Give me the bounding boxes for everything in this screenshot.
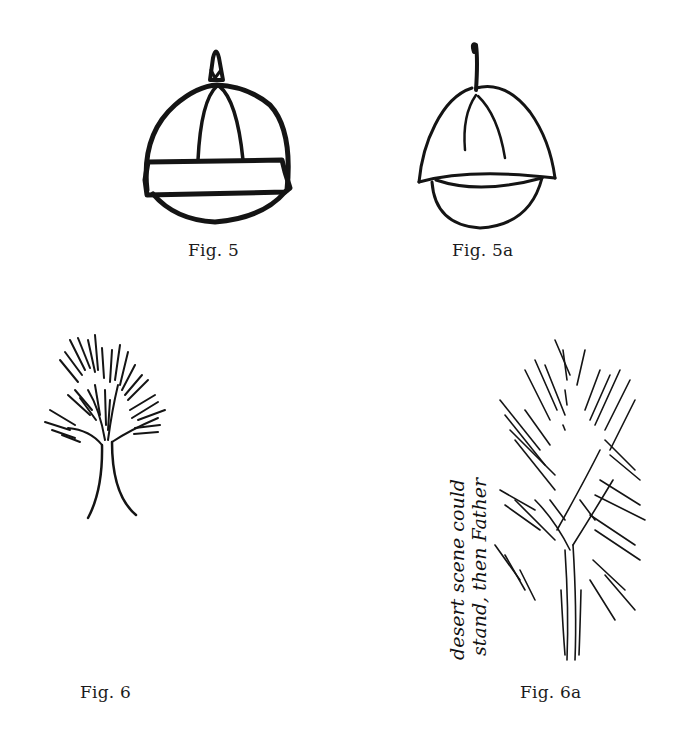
hat-without-band-drawing — [410, 40, 570, 230]
figure-5a-caption: Fig. 5a — [452, 240, 513, 260]
figure-6a — [495, 330, 655, 665]
hat-with-band-drawing — [135, 40, 300, 230]
figure-5 — [135, 40, 300, 230]
sketchy-tree-drawing — [495, 330, 655, 665]
figure-6-caption: Fig. 6 — [80, 682, 131, 702]
figure-6 — [40, 330, 180, 525]
small-tree-drawing — [40, 330, 180, 525]
annotation-line-2: stand, then Father — [468, 478, 490, 660]
figure-6a-caption: Fig. 6a — [520, 682, 581, 702]
figure-5-caption: Fig. 5 — [188, 240, 239, 260]
annotation-line-1: desert scene could — [446, 478, 468, 660]
figure-5a — [410, 40, 570, 230]
handwritten-annotation: desert scene could stand, then Father — [446, 478, 490, 660]
